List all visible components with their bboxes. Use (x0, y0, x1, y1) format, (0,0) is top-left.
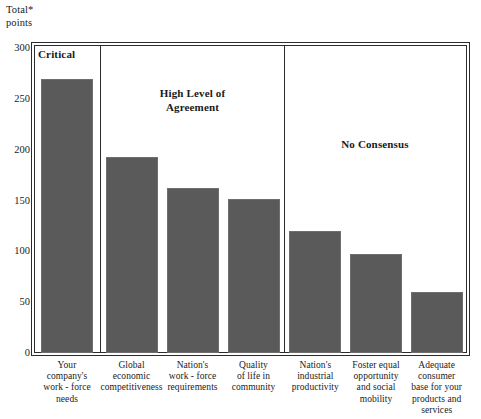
group-divider-2 (284, 45, 285, 353)
y-axis-tick-100: 100 (0, 246, 30, 257)
y-axis-tick-150: 150 (0, 195, 30, 206)
bar-chart: Total* points 050100150200250300 Your co… (0, 0, 481, 419)
group-annotation-3: No Consensus (300, 137, 450, 151)
y-axis-tick-200: 200 (0, 144, 30, 155)
y-axis-tick-50: 50 (0, 297, 30, 308)
x-axis-label-7: Adequate consumer base for your products… (396, 360, 478, 416)
group-annotation-2: High Level of Agreement (110, 86, 275, 114)
bar-7 (411, 292, 463, 353)
bar-4 (228, 199, 280, 353)
group-annotation-1: Critical (38, 47, 98, 61)
bar-5 (289, 231, 341, 353)
y-axis-tick-300: 300 (0, 43, 30, 54)
group-divider-1 (100, 45, 101, 353)
bar-3 (167, 188, 219, 353)
x-axis-category-labels: Your company's work - force needsGlobal … (34, 360, 467, 418)
y-axis-tick-labels: 050100150200250300 (0, 0, 30, 419)
bar-2 (106, 157, 158, 353)
bar-1 (41, 79, 93, 354)
bar-6 (350, 254, 402, 353)
y-axis-tick-0: 0 (0, 348, 30, 359)
y-axis-tick-250: 250 (0, 94, 30, 105)
